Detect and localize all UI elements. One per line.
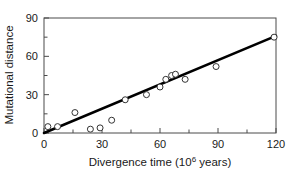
y-axis-title: Mutational distance — [3, 25, 15, 124]
data-point — [143, 92, 149, 98]
x-axis-title-text: Divergence time (106 years) — [89, 155, 232, 168]
data-point — [157, 84, 163, 90]
data-point — [182, 76, 188, 82]
data-point — [97, 125, 103, 131]
x-tick-label: 90 — [212, 138, 224, 150]
x-tick-label: 30 — [96, 138, 108, 150]
chart-canvas: 0306090 0306090120 Divergence time (106 … — [0, 0, 294, 173]
data-point — [109, 117, 115, 123]
x-tick-label: 60 — [154, 138, 166, 150]
data-point — [172, 71, 178, 77]
data-point — [271, 34, 277, 40]
y-tick-label: 60 — [26, 50, 38, 62]
y-tick-label: 0 — [32, 127, 38, 139]
data-point — [122, 97, 128, 103]
y-tick-label: 90 — [26, 12, 38, 24]
data-point — [45, 124, 51, 130]
scatter-plot-figure: 0306090 0306090120 Divergence time (106 … — [0, 0, 294, 173]
data-point — [213, 64, 219, 70]
y-tick-label: 30 — [26, 89, 38, 101]
data-point — [72, 110, 78, 116]
data-point — [87, 126, 93, 132]
data-point — [55, 124, 61, 130]
x-axis-title-tail: years) — [196, 156, 231, 168]
x-axis-title: Divergence time (106 years) — [89, 155, 232, 168]
x-tick-label: 120 — [267, 138, 285, 150]
x-axis-title-base: Divergence time (10 — [89, 156, 192, 168]
x-tick-label: 0 — [41, 138, 47, 150]
data-point — [163, 76, 169, 82]
